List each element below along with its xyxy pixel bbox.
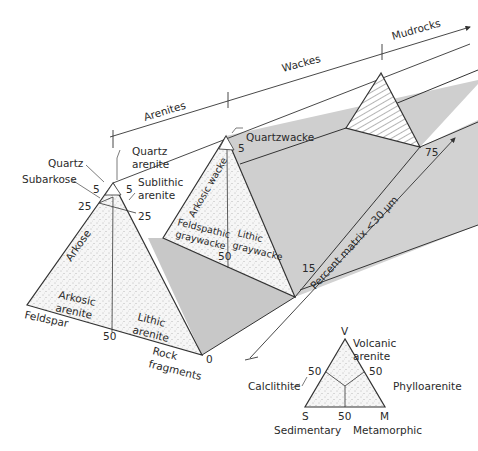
- calclithite-label: Calclithite: [248, 380, 301, 392]
- phylloarenite-label: Phylloarenite: [393, 380, 462, 392]
- sedimentary-label: Sedimentary: [274, 424, 341, 436]
- quartz-arenite-label-2: arenite: [132, 158, 169, 170]
- tick-vsm-right-50: 50: [369, 365, 382, 377]
- tick-wacke-50: 50: [218, 250, 231, 262]
- tick-right-5: 5: [126, 183, 133, 195]
- arenites-label: Arenites: [142, 99, 187, 123]
- sublithic-label-2: arenite: [138, 189, 175, 201]
- metamorphic-label: Metamorphic: [353, 424, 422, 436]
- quartzwacke-label: Quartzwacke: [246, 131, 314, 143]
- tick-base-50: 50: [103, 330, 116, 342]
- tick-matrix-75: 75: [425, 146, 438, 158]
- v-label: V: [341, 325, 349, 337]
- volcanic-arenite-label-1: Volcanic: [353, 337, 396, 349]
- tick-vsm-base-50: 50: [338, 410, 351, 422]
- tick-wacke-5: 5: [238, 142, 245, 154]
- tick-right-25: 25: [138, 210, 151, 222]
- quartz-arenite-label-1: Quartz: [132, 145, 168, 157]
- wackes-label: Wackes: [280, 52, 321, 74]
- m-label: M: [380, 410, 389, 422]
- s-label: S: [302, 410, 309, 422]
- subarkose-label: Subarkose: [22, 173, 77, 185]
- classification-diagram: Arenites Wackes Mudrocks Quartz Subarkos…: [0, 0, 478, 451]
- tick-left-25: 25: [78, 200, 91, 212]
- tick-matrix-0: 0: [206, 353, 213, 365]
- quartz-label: Quartz: [48, 157, 84, 169]
- tick-left-5: 5: [93, 183, 100, 195]
- tick-vsm-left-50: 50: [308, 365, 321, 377]
- tick-matrix-15: 15: [302, 262, 315, 274]
- volcanic-arenite-label-2: arenite: [353, 350, 390, 362]
- sublithic-label-1: Sublithic: [138, 176, 184, 188]
